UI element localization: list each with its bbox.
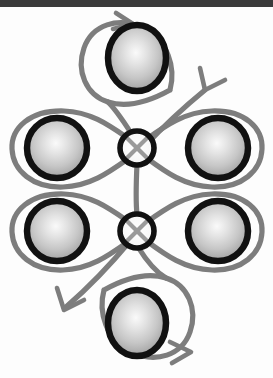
sphere-top: [108, 25, 166, 91]
figure-canvas: [0, 0, 273, 378]
arrow-upper-right-icon: [200, 68, 225, 90]
sphere-lower-left: [27, 201, 87, 261]
node-lower: [120, 214, 154, 248]
knot-lobe-diagram: [0, 0, 273, 378]
connector-vertical-path: [136, 164, 137, 215]
node-upper: [120, 131, 154, 165]
sphere-upper-left: [27, 118, 87, 178]
sphere-upper-right: [188, 118, 248, 178]
sphere-bottom: [108, 290, 166, 356]
sphere-lower-right: [188, 201, 248, 261]
